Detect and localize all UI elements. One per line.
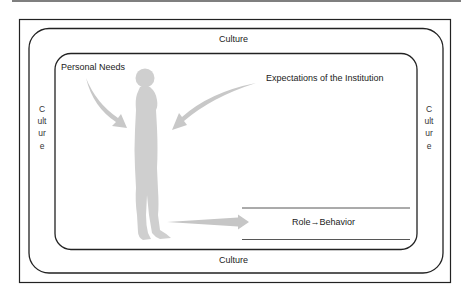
arrow-to-role-icon xyxy=(167,215,249,230)
arrow-personal-needs-icon xyxy=(86,78,127,128)
culture-top-label: Culture xyxy=(219,34,248,44)
culture-right-label: Culture xyxy=(424,103,434,152)
arrow-expectations-icon xyxy=(172,83,256,130)
role-behavior-label: Role→Behavior xyxy=(292,217,355,227)
culture-bottom-label: Culture xyxy=(219,255,248,265)
diagram-canvas xyxy=(0,0,471,298)
expectations-label: Expectations of the Institution xyxy=(266,73,384,83)
personal-needs-label: Personal Needs xyxy=(61,62,125,72)
person-silhouette-icon xyxy=(135,69,172,241)
culture-left-label: Culture xyxy=(37,103,47,152)
outer-frame xyxy=(20,20,451,283)
